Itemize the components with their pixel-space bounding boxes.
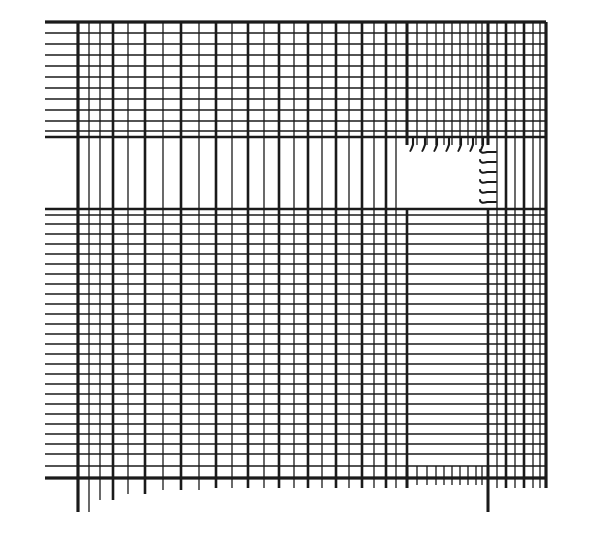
paper-background (0, 0, 613, 536)
mesh-figure (0, 0, 613, 536)
mesh-canvas (0, 0, 613, 536)
